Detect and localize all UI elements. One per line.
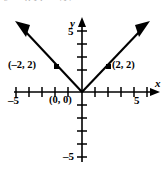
x-tick-label-5: 5 — [134, 95, 140, 106]
y-tick-label-neg5: –5 — [63, 151, 74, 162]
curve-right-branch — [82, 21, 150, 92]
y-tick-label-5: 5 — [68, 26, 74, 37]
x-axis-label: x — [155, 78, 161, 89]
x-tick-label-neg5: –5 — [8, 95, 19, 106]
origin-point-label: (0, 0) — [49, 95, 72, 106]
plot-area — [0, 0, 167, 169]
data-point-marker-left — [54, 64, 59, 69]
data-point-marker-right — [106, 64, 111, 69]
data-point-label-negative-two: (–2, 2) — [8, 60, 36, 71]
absolute-value-graph-figure: y = f(x) = |x| — [0, 0, 167, 169]
data-point-label-positive-two: (2, 2) — [112, 60, 135, 71]
